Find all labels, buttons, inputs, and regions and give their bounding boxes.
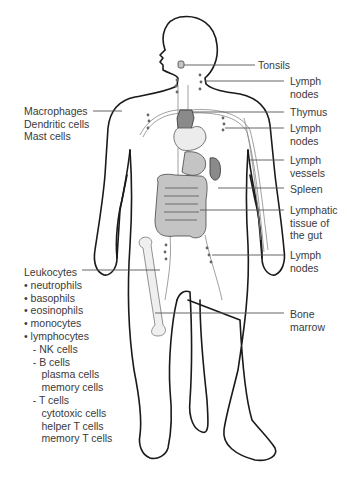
leukocyte-item: helper T cells	[24, 420, 112, 433]
spleen-shape	[210, 158, 221, 180]
leukocyte-item: • lymphocytes	[24, 330, 112, 343]
leukocyte-item: memory cells	[24, 381, 112, 394]
tonsil-shape	[178, 61, 184, 68]
label-lymph-nodes-neck: Lymph nodes	[290, 75, 321, 100]
label-lymph-vessels: Lymph vessels	[290, 154, 325, 179]
label-gut-lymphatic-tissue: Lymphatic tissue of the gut	[290, 204, 337, 242]
leukocyte-item: - NK cells	[24, 343, 112, 356]
label-tissue-immune-cells: Macrophages Dendritic cells Mast cells	[24, 105, 89, 143]
label-lymph-nodes-groin: Lymph nodes	[290, 249, 321, 274]
leukocyte-item: • basophils	[24, 292, 112, 305]
leukocyte-item: • eosinophils	[24, 304, 112, 317]
label-lymph-nodes-axilla: Lymph nodes	[290, 122, 321, 147]
body-outline	[94, 17, 284, 461]
label-bone-marrow: Bone marrow	[290, 308, 325, 333]
leukocytes-title: Leukocytes	[24, 266, 112, 279]
label-tonsils: Tonsils	[258, 59, 290, 72]
stomach-shape	[182, 152, 206, 176]
leukocyte-item: plasma cells	[24, 368, 112, 381]
heart-shape	[174, 126, 206, 150]
leukocyte-item: cytotoxic cells	[24, 407, 112, 420]
leukocyte-item: • neutrophils	[24, 279, 112, 292]
large-intestine-shape	[155, 174, 207, 238]
label-spleen: Spleen	[290, 183, 323, 196]
leukocytes-list: Leukocytes • neutrophils • basophils • e…	[24, 266, 112, 445]
leukocyte-item: • monocytes	[24, 317, 112, 330]
femur-bone-shape	[139, 237, 165, 336]
leukocyte-item: - T cells	[24, 394, 112, 407]
label-thymus: Thymus	[290, 106, 327, 119]
leukocyte-item: memory T cells	[24, 432, 112, 445]
leukocyte-item: - B cells	[24, 356, 112, 369]
